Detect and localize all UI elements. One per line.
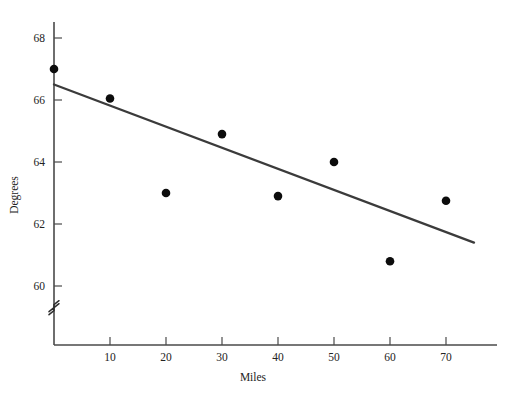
scatter-plot-figure: 606264666810203040506070MilesDegrees [0,0,506,394]
x-tick-label: 10 [104,351,116,363]
data-point [330,158,339,167]
data-point [442,196,451,205]
y-tick-label: 60 [34,280,46,292]
chart-canvas: 606264666810203040506070MilesDegrees [0,0,506,394]
y-tick-label: 62 [34,218,46,230]
x-tick-label: 20 [160,351,172,363]
x-tick-label: 40 [272,351,284,363]
y-tick-label: 68 [34,32,46,44]
y-tick-label: 64 [34,156,46,168]
data-point [218,130,227,139]
x-tick-label: 60 [384,351,396,363]
x-tick-label: 70 [440,351,452,363]
data-point [274,192,283,201]
data-point [162,189,171,198]
data-point [50,65,59,74]
x-axis-title: Miles [240,371,267,383]
x-tick-label: 30 [216,351,228,363]
data-point [386,257,395,266]
data-point [106,94,115,103]
y-tick-label: 66 [34,94,46,106]
x-tick-label: 50 [328,351,340,363]
regression-line [54,85,474,243]
y-axis-title: Degrees [8,176,21,214]
